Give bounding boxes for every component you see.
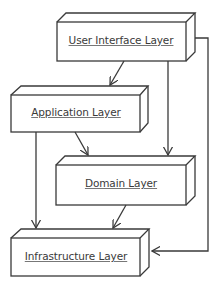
ui-layer-label: User Interface Layer xyxy=(69,34,174,46)
arrow-domain-to-infrastructure xyxy=(113,205,126,228)
arrow-ui-to-application xyxy=(110,61,124,85)
arrow-application-to-domain xyxy=(75,132,88,155)
arrow-ui-to-infrastructure xyxy=(152,38,208,251)
application-layer-label: Application Layer xyxy=(31,106,121,118)
domain-layer-label: Domain Layer xyxy=(85,177,157,189)
infrastructure-layer-label: Infrastructure Layer xyxy=(25,250,127,262)
